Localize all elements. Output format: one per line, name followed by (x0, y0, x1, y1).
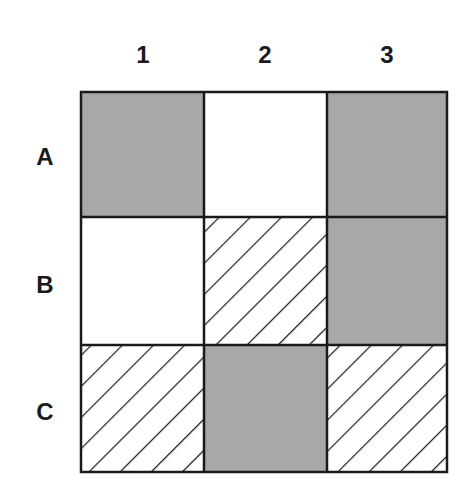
cell-c2-gray (204, 345, 327, 472)
grid (0, 0, 470, 499)
cell-b3-gray (327, 217, 447, 345)
cell-c3-hatched (327, 345, 447, 472)
cell-b1-white (81, 217, 204, 345)
cell-c1-hatched (81, 345, 204, 472)
cell-a1-gray (81, 92, 204, 217)
cell-a3-gray (327, 92, 447, 217)
cell-a2-white (204, 92, 327, 217)
cell-b2-hatched (204, 217, 327, 345)
